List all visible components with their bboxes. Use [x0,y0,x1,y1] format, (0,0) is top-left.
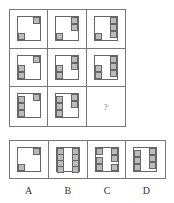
square-icon [57,166,64,173]
square-icon [110,24,117,31]
option-label-d[interactable]: D [127,185,166,196]
figure-frame [56,147,80,172]
figure-frame [17,55,41,80]
square-icon [96,164,103,171]
matrix-cell-r2c1 [10,49,48,88]
option-a[interactable] [10,141,49,178]
square-icon [71,94,78,101]
square-icon [134,164,141,171]
square-icon [71,17,78,24]
matrix-cell-r3c1 [10,87,48,126]
figure-frame [94,55,118,80]
option-labels: A B C D [9,185,166,196]
square-icon [134,150,141,157]
question-mark: ? [87,102,125,111]
figure-frame [55,93,79,118]
square-icon [56,103,63,110]
square-icon [56,33,63,40]
square-icon [71,56,78,63]
square-icon [110,63,117,70]
square-icon [95,72,102,79]
square-icon [72,166,79,173]
square-icon [149,162,156,169]
square-icon [33,94,40,101]
square-icon [110,56,117,63]
matrix-cell-r1c1 [10,10,48,49]
matrix-cell-r1c2 [48,10,86,49]
square-icon [56,96,63,103]
option-c[interactable] [88,141,127,178]
square-icon [110,31,117,38]
square-icon [18,164,25,171]
square-icon [33,148,40,155]
square-icon [110,70,117,77]
option-label-c[interactable]: C [88,185,127,196]
square-icon [96,148,103,155]
square-icon [18,103,25,110]
figure-frame [95,147,119,172]
square-icon [33,17,40,24]
puzzle-matrix: ? [9,9,126,127]
square-icon [56,110,63,117]
square-icon [18,65,25,72]
matrix-cell-missing: ? [87,87,125,126]
square-icon [149,148,156,155]
figure-frame [55,55,79,80]
square-icon [56,72,63,79]
option-label-a[interactable]: A [9,185,48,196]
figure-frame [133,147,157,172]
square-icon [96,157,103,164]
square-icon [71,101,78,108]
figure-frame [94,16,118,41]
matrix-cell-r1c3 [87,10,125,49]
square-icon [71,63,78,70]
square-icon [95,33,102,40]
square-icon [18,96,25,103]
square-icon [18,33,25,40]
square-icon [18,110,25,117]
square-icon [149,155,156,162]
square-icon [134,157,141,164]
matrix-cell-r3c2 [48,87,86,126]
matrix-cell-r2c2 [48,49,86,88]
option-d[interactable] [126,141,165,178]
figure-frame [17,147,41,172]
square-icon [111,155,118,162]
square-icon [110,17,117,24]
square-icon [111,164,118,171]
matrix-cell-r2c3 [87,49,125,88]
option-label-b[interactable]: B [48,185,87,196]
square-icon [56,65,63,72]
figure-frame [17,16,41,41]
square-icon [33,56,40,63]
answer-options [9,140,166,179]
figure-frame [55,16,79,41]
square-icon [18,72,25,79]
option-b[interactable] [49,141,88,178]
square-icon [111,148,118,155]
square-icon [95,65,102,72]
square-icon [71,24,78,31]
figure-frame [17,93,41,118]
